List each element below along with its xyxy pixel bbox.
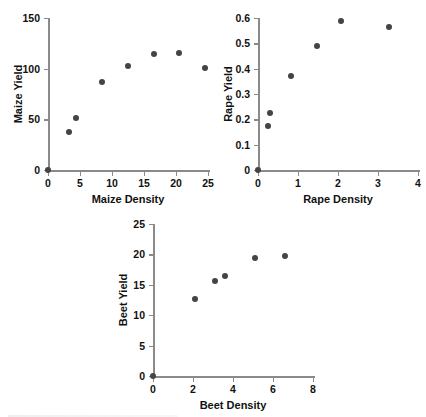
x-tick-label-maize-5: 25	[202, 178, 214, 189]
x-tick-label-beet-0: 0	[150, 384, 156, 395]
y-axis-title-maize: Maize Yield	[13, 65, 24, 124]
x-tick-label-beet-2: 4	[230, 384, 236, 395]
y-tick-beet-4	[149, 254, 153, 255]
x-tick-label-beet-4: 8	[310, 384, 316, 395]
x-tick-label-rape-1: 1	[295, 178, 301, 189]
y-tick-label-rape-1: 0.1	[220, 139, 250, 150]
x-tick-maize-4	[176, 172, 177, 176]
data-point-rape-3	[288, 73, 294, 79]
y-axis-title-beet: Beet Yield	[118, 274, 129, 327]
x-tick-label-maize-1: 5	[77, 178, 83, 189]
x-tick-maize-1	[80, 172, 81, 176]
data-point-maize-3	[99, 79, 105, 85]
data-point-maize-2	[73, 115, 79, 121]
y-tick-rape-6	[254, 18, 258, 19]
data-point-beet-5	[282, 253, 288, 259]
x-tick-label-maize-4: 20	[170, 178, 182, 189]
x-tick-label-beet-3: 6	[270, 384, 276, 395]
x-tick-label-maize-0: 0	[45, 178, 51, 189]
y-tick-beet-2	[149, 315, 153, 316]
chart-panel-rape: 0123400.10.20.30.40.50.6Rape DensityRape…	[220, 6, 426, 208]
x-tick-label-rape-0: 0	[255, 178, 261, 189]
data-point-beet-2	[212, 278, 218, 284]
y-tick-label-rape-0: 0	[220, 165, 250, 176]
x-tick-rape-1	[298, 172, 299, 176]
chart-panel-beet: 024680510152025Beet DensityBeet Yield	[115, 212, 331, 414]
data-point-rape-5	[338, 18, 344, 24]
x-tick-beet-1	[193, 378, 194, 382]
x-tick-rape-4	[418, 172, 419, 176]
data-point-maize-1	[66, 129, 72, 135]
x-tick-beet-3	[273, 378, 274, 382]
y-tick-maize-1	[44, 119, 48, 120]
y-tick-rape-2	[254, 119, 258, 120]
x-tick-label-maize-2: 10	[106, 178, 118, 189]
y-axis-line-maize	[48, 18, 50, 172]
x-tick-label-rape-2: 2	[335, 178, 341, 189]
x-tick-beet-4	[313, 378, 314, 382]
data-point-rape-1	[265, 123, 271, 129]
data-point-beet-0	[150, 373, 156, 379]
data-point-beet-4	[252, 255, 258, 261]
y-tick-rape-1	[254, 145, 258, 146]
x-tick-maize-2	[112, 172, 113, 176]
y-tick-rape-5	[254, 43, 258, 44]
data-point-maize-5	[151, 51, 157, 57]
data-point-maize-6	[176, 50, 182, 56]
data-point-rape-6	[386, 24, 392, 30]
y-tick-label-beet-5: 25	[115, 219, 145, 230]
data-point-maize-0	[45, 167, 51, 173]
y-tick-rape-3	[254, 94, 258, 95]
y-axis-line-beet	[153, 224, 155, 378]
y-tick-label-beet-1: 5	[115, 340, 145, 351]
data-point-rape-2	[267, 110, 273, 116]
data-point-rape-0	[255, 167, 261, 173]
y-tick-label-beet-0: 0	[115, 371, 145, 382]
data-point-maize-7	[202, 65, 208, 71]
y-tick-label-maize-0: 0	[10, 165, 40, 176]
y-tick-label-beet-4: 20	[115, 249, 145, 260]
x-tick-beet-2	[233, 378, 234, 382]
data-point-beet-3	[222, 273, 228, 279]
x-tick-maize-3	[144, 172, 145, 176]
x-axis-title-rape: Rape Density	[303, 194, 373, 205]
y-tick-label-rape-5: 0.5	[220, 38, 250, 49]
x-axis-line-maize	[48, 170, 210, 172]
y-tick-label-rape-6: 0.6	[220, 13, 250, 24]
y-tick-beet-5	[149, 224, 153, 225]
chart-panel-maize: 0510152025050100150Maize DensityMaize Yi…	[10, 6, 226, 208]
x-tick-maize-5	[208, 172, 209, 176]
x-tick-rape-3	[378, 172, 379, 176]
x-axis-title-maize: Maize Density	[92, 194, 165, 205]
x-tick-label-maize-3: 15	[138, 178, 150, 189]
x-tick-label-rape-3: 3	[375, 178, 381, 189]
data-point-beet-1	[192, 296, 198, 302]
y-tick-beet-3	[149, 285, 153, 286]
x-tick-label-rape-4: 4	[415, 178, 421, 189]
x-tick-label-beet-1: 2	[190, 384, 196, 395]
y-axis-title-rape: Rape Yield	[223, 66, 234, 122]
y-tick-maize-2	[44, 69, 48, 70]
x-tick-rape-2	[338, 172, 339, 176]
y-axis-line-rape	[258, 18, 260, 172]
y-tick-beet-1	[149, 346, 153, 347]
x-axis-title-beet: Beet Density	[200, 400, 267, 411]
y-tick-label-maize-3: 150	[10, 13, 40, 24]
data-point-maize-4	[125, 63, 131, 69]
data-point-rape-4	[314, 43, 320, 49]
y-tick-rape-4	[254, 69, 258, 70]
y-tick-maize-3	[44, 18, 48, 19]
